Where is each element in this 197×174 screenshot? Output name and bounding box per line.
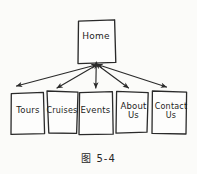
node-box-about[interactable] bbox=[116, 91, 148, 133]
connector-home-cruises bbox=[57, 67, 94, 89]
figure-canvas: Home Tours Cruises Events About Us Conta… bbox=[0, 0, 197, 174]
node-box-home[interactable] bbox=[78, 20, 116, 64]
node-box-contact[interactable] bbox=[152, 91, 187, 134]
node-box-events[interactable] bbox=[79, 92, 113, 135]
node-box-cruises[interactable] bbox=[47, 91, 78, 133]
connector-home-tours bbox=[17, 66, 93, 86]
figure-caption: 图 5-4 bbox=[0, 150, 197, 165]
node-box-tours[interactable] bbox=[11, 92, 45, 134]
connector-home-contact bbox=[102, 66, 167, 87]
sitemap-diagram bbox=[0, 0, 197, 174]
